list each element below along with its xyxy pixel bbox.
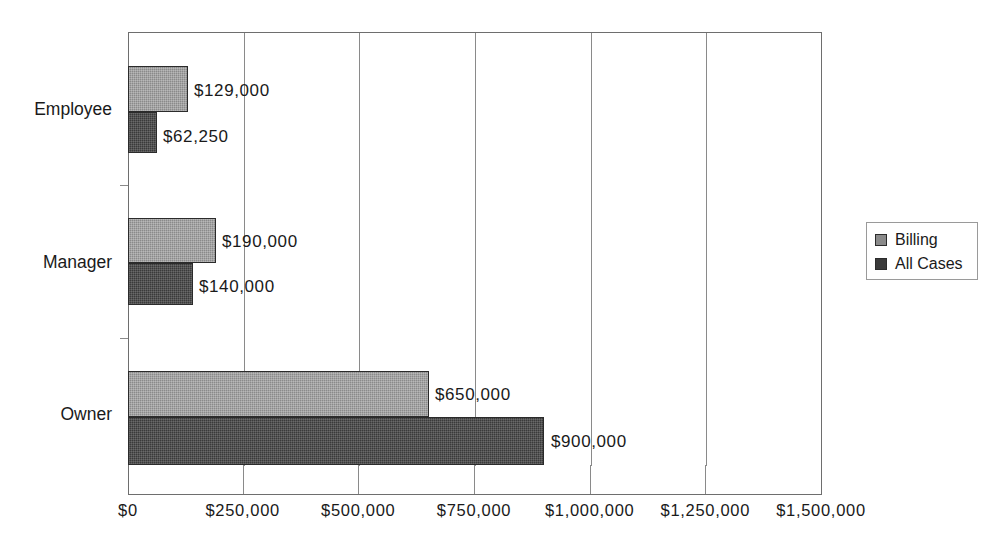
x-axis-line [128, 494, 822, 495]
x-tick-500000 [358, 465, 359, 494]
bar-manager-all-cases[interactable] [128, 263, 193, 305]
x-tick-label-1000000: $1,000,000 [523, 502, 657, 519]
x-tick-1500000 [821, 465, 822, 494]
x-tick-1250000 [705, 465, 706, 494]
x-tick-1000000 [590, 465, 591, 494]
legend-item-all-cases[interactable]: All Cases [875, 256, 963, 272]
value-label-owner-billing: $650,000 [435, 386, 511, 403]
x-tick-label-0: $0 [88, 502, 168, 519]
value-label-owner-all-cases: $900,000 [551, 433, 627, 450]
value-label-manager-all-cases: $140,000 [199, 278, 275, 295]
bar-employee-all-cases[interactable] [128, 112, 157, 153]
legend: Billing All Cases [866, 222, 978, 280]
bar-chart: $129,000 $62,250 $190,000 $140,000 $650,… [0, 0, 997, 543]
x-tick-label-500000: $500,000 [298, 502, 418, 519]
legend-label-billing: Billing [895, 232, 938, 248]
x-tick-label-1500000: $1,500,000 [754, 502, 888, 519]
x-tick-0 [128, 465, 129, 494]
bar-employee-billing[interactable] [128, 66, 188, 112]
x-tick-label-1250000: $1,250,000 [638, 502, 772, 519]
legend-swatch-all-cases-icon [875, 258, 887, 270]
legend-label-all-cases: All Cases [895, 256, 963, 272]
category-label-manager: Manager [0, 254, 112, 272]
category-label-owner: Owner [0, 406, 112, 424]
category-label-employee: Employee [0, 101, 112, 119]
x-tick-label-750000: $750,000 [414, 502, 534, 519]
gridline-1000000 [591, 33, 592, 466]
ycat-tick-2 [120, 338, 128, 339]
gridline-1250000 [706, 33, 707, 466]
x-tick-750000 [474, 465, 475, 494]
bar-owner-all-cases[interactable] [128, 417, 544, 465]
value-label-employee-billing: $129,000 [194, 82, 270, 99]
value-label-employee-all-cases: $62,250 [163, 128, 229, 145]
legend-swatch-billing-icon [875, 234, 887, 246]
ycat-tick-1 [120, 185, 128, 186]
value-label-manager-billing: $190,000 [222, 233, 298, 250]
bar-manager-billing[interactable] [128, 218, 216, 263]
x-tick-250000 [243, 465, 244, 494]
x-tick-label-250000: $250,000 [183, 502, 303, 519]
legend-item-billing[interactable]: Billing [875, 232, 938, 248]
bar-owner-billing[interactable] [128, 371, 429, 417]
